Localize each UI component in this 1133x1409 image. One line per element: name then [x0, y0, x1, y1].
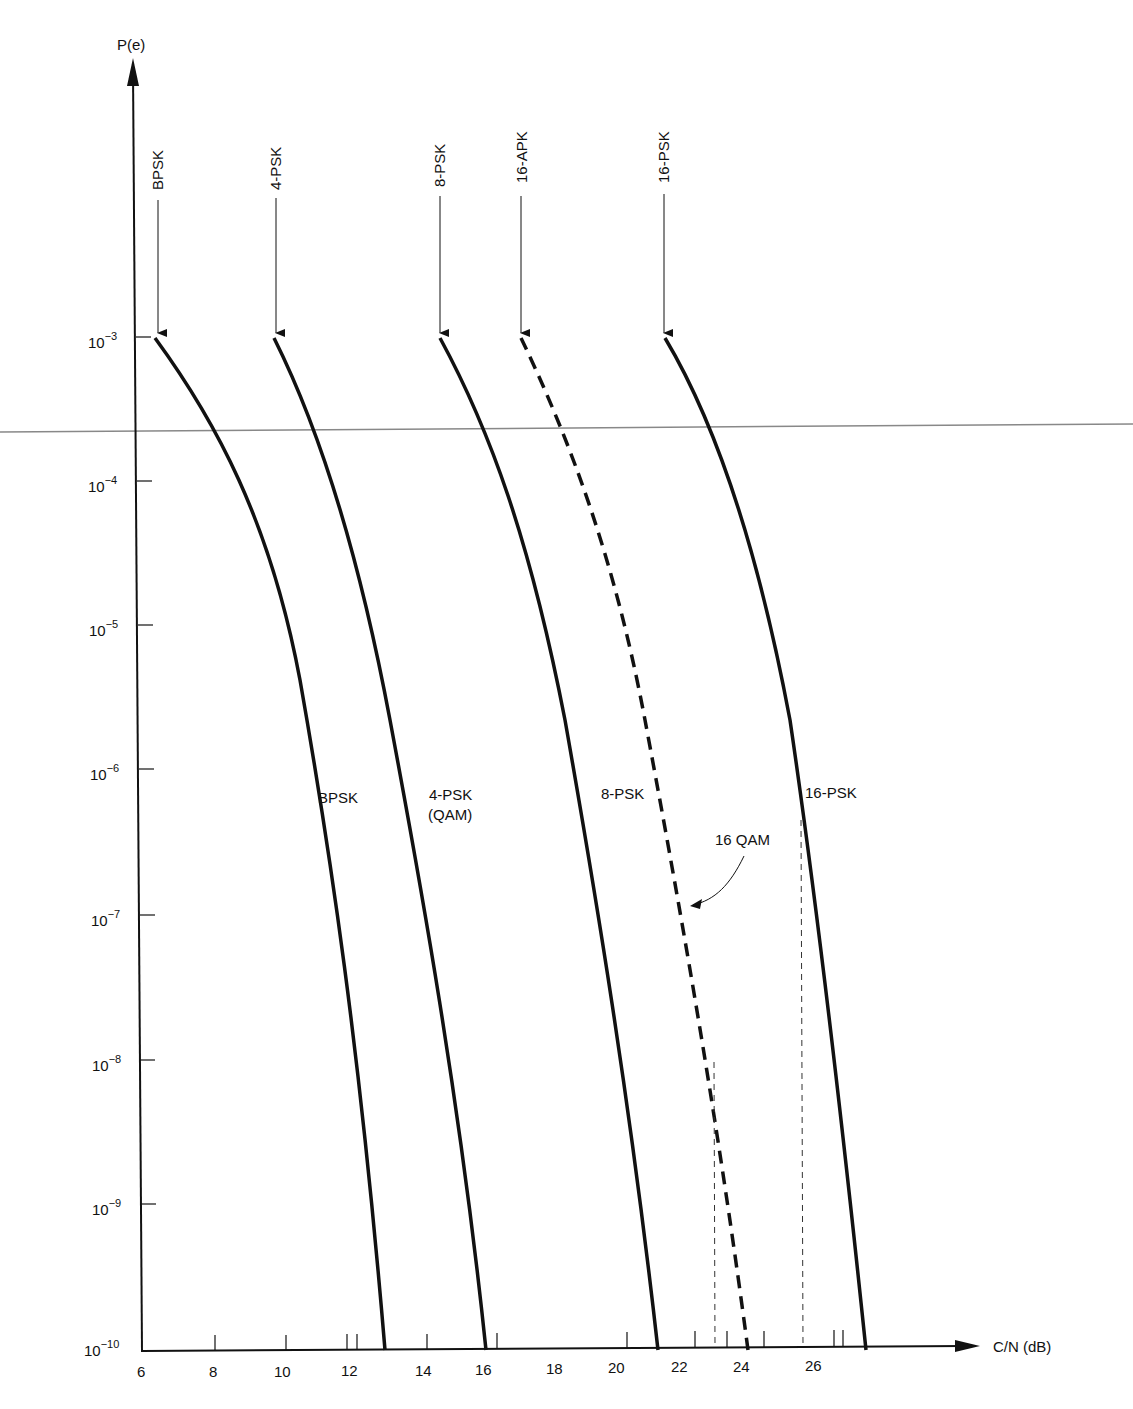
top-label-8psk: 8-PSK: [431, 144, 448, 187]
page-edge-line: [0, 424, 1133, 432]
label-16qam-pointer: [693, 856, 744, 905]
top-label-bpsk: BPSK: [149, 150, 166, 190]
top-label-4psk: 4-PSK: [267, 147, 284, 190]
svg-text:10−8: 10−8: [92, 1053, 121, 1074]
svg-text:24: 24: [733, 1358, 750, 1375]
x-axis: C/N (dB): [142, 1338, 1051, 1355]
top-label-16apk: 16-APK: [513, 131, 530, 183]
svg-text:22: 22: [671, 1358, 688, 1375]
svg-text:14: 14: [415, 1362, 432, 1379]
svg-text:10−6: 10−6: [90, 762, 119, 783]
label-bpsk: BPSK: [318, 789, 358, 806]
y-ticks: [136, 337, 156, 1204]
svg-text:10−4: 10−4: [88, 474, 117, 495]
svg-text:26: 26: [805, 1357, 822, 1374]
svg-text:16: 16: [475, 1361, 492, 1378]
x-axis-label: C/N (dB): [993, 1338, 1051, 1355]
svg-text:10−9: 10−9: [92, 1197, 121, 1218]
curve-8psk: [440, 338, 658, 1350]
svg-text:10−5: 10−5: [89, 618, 118, 639]
top-labels: BPSK 4-PSK 8-PSK 16-APK 16-PSK: [149, 131, 672, 333]
svg-text:12: 12: [341, 1362, 358, 1379]
svg-text:8: 8: [209, 1363, 217, 1380]
top-label-16psk: 16-PSK: [655, 131, 672, 183]
label-16psk: 16-PSK: [805, 784, 857, 801]
y-axis: P(e): [117, 36, 145, 1352]
y-tick-labels: 10−3 10−4 10−5 10−6 10−7 10−8 10−9 10−10: [84, 330, 121, 1359]
ber-chart: P(e) 10−3 10−4 10−5 10−6 10−7 10−8 10−9 …: [0, 0, 1133, 1409]
curve-bpsk: [155, 338, 385, 1350]
curve-16apk: [521, 338, 748, 1350]
svg-text:10−3: 10−3: [88, 330, 117, 351]
x-axis-arrow-icon: [955, 1340, 980, 1352]
svg-text:6: 6: [137, 1363, 145, 1380]
curve-4psk: [274, 338, 486, 1350]
guide-lines: [714, 820, 803, 1347]
label-4psk-qam: (QAM): [428, 806, 472, 823]
svg-text:10−7: 10−7: [91, 908, 120, 929]
label-4psk: 4-PSK: [429, 786, 472, 803]
y-axis-label: P(e): [117, 36, 145, 53]
x-tick-labels: 6 8 10 12 14 16 18 20 22 24 26: [137, 1357, 822, 1380]
label-8psk: 8-PSK: [601, 785, 644, 802]
pointer-arrow-icon: [690, 899, 702, 909]
svg-text:18: 18: [546, 1360, 563, 1377]
y-axis-arrow-icon: [127, 58, 139, 86]
svg-text:10−10: 10−10: [84, 1338, 119, 1359]
label-16qam: 16 QAM: [715, 831, 770, 848]
svg-text:10: 10: [274, 1363, 291, 1380]
svg-text:20: 20: [608, 1359, 625, 1376]
